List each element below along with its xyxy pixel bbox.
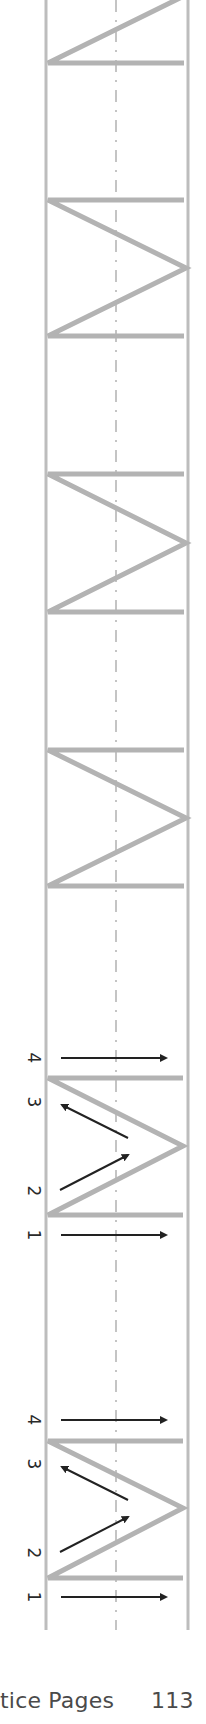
page-number: 113	[151, 1688, 194, 1713]
stroke-label-4: 4	[24, 1415, 44, 1426]
guide-lines	[46, 0, 188, 1630]
stroke-order-arrows-2	[60, 1420, 166, 1597]
stroke-label-1: 1	[24, 1230, 44, 1241]
stroke-arrow-2	[60, 1517, 128, 1552]
stroke-label-3: 3	[24, 1459, 44, 1470]
stroke-label-2: 2	[24, 1186, 44, 1197]
stroke-order-arrows-1	[60, 1058, 166, 1235]
stroke-label-2: 2	[24, 1548, 44, 1559]
stroke-number-labels-1: 1 2 3 4	[24, 1053, 44, 1241]
stroke-number-labels-2: 1 2 3 4	[24, 1415, 44, 1603]
page-footer: tice Pages 113	[0, 1688, 206, 1718]
footer-title: tice Pages	[0, 1688, 114, 1713]
stroke-arrow-2	[60, 1155, 128, 1190]
stroke-label-4: 4	[24, 1053, 44, 1064]
stroke-label-3: 3	[24, 1097, 44, 1108]
stroke-label-1: 1	[24, 1592, 44, 1603]
stroke-arrow-3	[62, 1467, 128, 1500]
stroke-arrow-3	[62, 1105, 128, 1138]
handwriting-practice-sheet: 1 2 3 4 1 2 3 4	[0, 0, 206, 1724]
